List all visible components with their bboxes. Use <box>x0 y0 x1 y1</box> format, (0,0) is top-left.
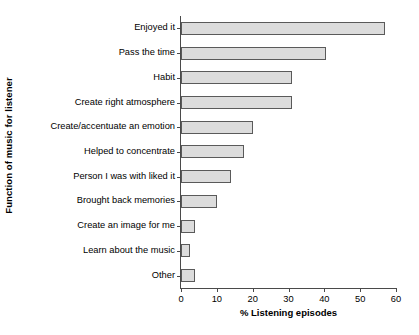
y-axis-tick-label: Enjoyed it <box>134 24 175 33</box>
x-axis-tick <box>324 288 325 292</box>
x-axis-tick <box>217 288 218 292</box>
x-axis-tick-label: 60 <box>391 294 401 304</box>
bar <box>181 71 292 84</box>
y-axis-tick-label: Pass the time <box>119 48 175 57</box>
x-axis-tick-label: 10 <box>212 294 222 304</box>
bar-row <box>181 239 396 264</box>
y-axis-tick <box>177 276 181 277</box>
y-axis-tick-label: Habit <box>153 73 175 82</box>
x-axis-tick-label: 0 <box>178 294 183 304</box>
bar-row <box>181 263 396 288</box>
y-axis-tick <box>177 28 181 29</box>
x-axis-tick <box>181 288 182 292</box>
y-axis-tick <box>177 226 181 227</box>
bar <box>181 269 195 282</box>
y-axis-tick <box>177 78 181 79</box>
y-axis-tick-label: Create right atmosphere <box>75 98 175 107</box>
plot-area: Enjoyed itPass the timeHabitCreate right… <box>181 16 396 288</box>
bar-row <box>181 140 396 165</box>
x-axis-tick <box>396 288 397 292</box>
y-axis-title-text: Function of music for listener <box>3 77 14 214</box>
y-axis-tick-label: Person I was with liked it <box>73 172 175 181</box>
x-axis-tick-label: 30 <box>283 294 293 304</box>
y-axis-title: Function of music for listener <box>0 0 16 290</box>
x-axis-tick-label: 40 <box>319 294 329 304</box>
bar-row <box>181 16 396 41</box>
y-axis-tick <box>177 53 181 54</box>
bar-row <box>181 189 396 214</box>
y-axis-tick-label: Brought back memories <box>77 197 175 206</box>
y-axis-tick-label: Helped to concentrate <box>84 147 175 156</box>
bar-row <box>181 41 396 66</box>
bar-row <box>181 65 396 90</box>
bar <box>181 145 244 158</box>
y-axis-tick <box>177 251 181 252</box>
y-axis-tick <box>177 177 181 178</box>
bar-row <box>181 115 396 140</box>
y-axis-tick-label: Other <box>152 271 175 280</box>
bar <box>181 170 231 183</box>
y-axis-tick <box>177 103 181 104</box>
x-axis-title: % Listening episodes <box>181 307 396 318</box>
bar-row <box>181 214 396 239</box>
bar-row <box>181 164 396 189</box>
x-axis-tick <box>289 288 290 292</box>
y-axis-tick <box>177 152 181 153</box>
x-axis-tick-label: 50 <box>355 294 365 304</box>
bar <box>181 244 190 257</box>
y-axis-tick-label: Learn about the music <box>83 246 175 255</box>
y-axis-tick-label: Create/accentuate an emotion <box>50 123 175 132</box>
bar <box>181 195 217 208</box>
bar <box>181 22 385 35</box>
bar <box>181 47 326 60</box>
y-axis-tick <box>177 127 181 128</box>
bar <box>181 96 292 109</box>
y-axis-tick <box>177 201 181 202</box>
x-axis-tick <box>253 288 254 292</box>
bar-chart: Function of music for listener Enjoyed i… <box>0 0 419 335</box>
bar <box>181 220 195 233</box>
y-axis-tick-label: Create an image for me <box>77 222 175 231</box>
x-axis-tick-label: 20 <box>247 294 257 304</box>
bar <box>181 121 253 134</box>
x-axis-tick <box>360 288 361 292</box>
bar-row <box>181 90 396 115</box>
